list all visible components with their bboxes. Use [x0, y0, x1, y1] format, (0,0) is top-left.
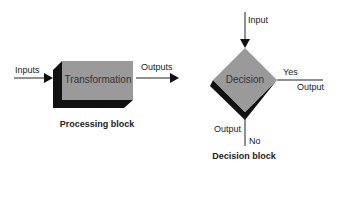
inputs-label: Inputs — [15, 65, 40, 75]
decision-label: Decision — [226, 74, 264, 85]
processing-block-caption: Processing block — [60, 119, 136, 129]
outputs-label: Outputs — [141, 62, 173, 72]
decision-block-caption: Decision block — [212, 151, 277, 161]
processing-block-group: Inputs Transformation Outputs Processing… — [14, 61, 179, 129]
decision-input-arrowhead-icon — [240, 39, 250, 48]
no-label: No — [249, 136, 261, 146]
no-output-label: Output — [214, 124, 242, 134]
inputs-arrowhead-icon — [44, 73, 53, 83]
decision-block-group: Input Decision Yes Output Output No Deci… — [210, 12, 325, 161]
yes-label: Yes — [283, 67, 298, 77]
flowchart-diagram: Inputs Transformation Outputs Processing… — [0, 0, 343, 206]
outputs-arrowhead-icon — [170, 73, 179, 83]
transformation-label: Transformation — [65, 74, 132, 85]
decision-input-label: Input — [248, 15, 269, 25]
yes-output-label: Output — [297, 82, 325, 92]
